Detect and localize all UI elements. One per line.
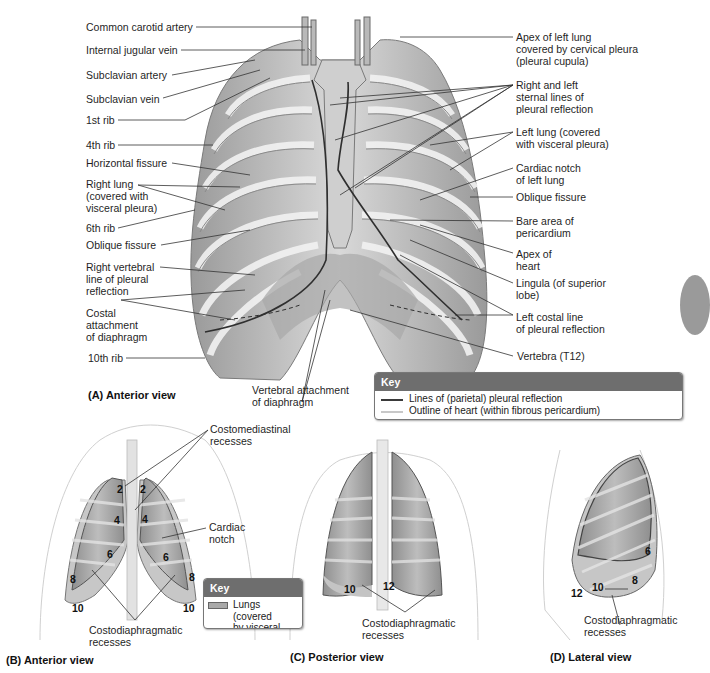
rib-number: 6 — [645, 545, 651, 557]
label-6th-rib: 6th rib — [86, 222, 115, 234]
lungs-posterior-figure — [290, 440, 478, 640]
rib-number: 10 — [344, 583, 356, 595]
label-subclavian-vein: Subclavian vein — [86, 93, 160, 105]
label-lingula: Lingula (of superior lobe) — [516, 277, 606, 301]
label-cardiac-notch: Cardiac notch — [209, 521, 245, 545]
label-left-lung: Left lung (covered with visceral pleura) — [516, 126, 609, 150]
panel-a-title: (A) Anterior view — [88, 389, 176, 401]
key-panel-b: Key Lungs (covered by visceral pleura) P… — [203, 578, 303, 629]
label-vertebral-attachment-diaphragm: Vertebral attachment of diaphragm — [252, 384, 349, 408]
label-costomediastinal-recesses: Costomediastinal recesses — [210, 423, 291, 447]
label-costal-attachment-diaphragm: Costal attachment of diaphragm — [86, 307, 147, 343]
panel-d-title: (D) Lateral view — [550, 651, 631, 663]
rib-number: 8 — [189, 571, 195, 583]
label-left-costal-line: Left costal line of pleural reflection — [516, 311, 605, 335]
rib-number: 2 — [140, 483, 146, 495]
key-a-item-label: Outline of heart (within fibrous pericar… — [409, 405, 600, 417]
label-costodiaphragmatic-recesses-d: Costodiaphragmatic recesses — [584, 614, 677, 638]
rib-number: 12 — [383, 580, 395, 592]
panel-b-title: (B) Anterior view — [6, 654, 94, 666]
label-subclavian-artery: Subclavian artery — [86, 69, 167, 81]
label-internal-jugular-vein: Internal jugular vein — [86, 44, 178, 56]
key-b-item-lungs: Lungs (covered by visceral pleura) — [204, 597, 302, 629]
label-apex-left-lung: Apex of left lung covered by cervical pl… — [516, 31, 638, 67]
rib-number: 10 — [183, 602, 195, 614]
key-panel-a: Key Lines of (parietal) pleural reflecti… — [374, 372, 683, 420]
label-4th-rib: 4th rib — [86, 139, 115, 151]
label-sternal-lines: Right and left sternal lines of pleural … — [516, 79, 593, 115]
label-right-lung: Right lung (covered with visceral pleura… — [86, 178, 157, 214]
panel-c-title: (C) Posterior view — [290, 651, 384, 663]
key-a-item-pleural-reflection: Lines of (parietal) pleural reflection — [375, 393, 682, 405]
rib-number: 4 — [142, 513, 148, 525]
label-oblique-fissure-right: Oblique fissure — [86, 239, 156, 251]
rib-number: 4 — [114, 514, 120, 526]
rib-number: 6 — [107, 548, 113, 560]
rib-number: 6 — [163, 551, 169, 563]
rib-number: 2 — [117, 483, 123, 495]
label-right-vertebral-line: Right vertebral line of pleural reflecti… — [86, 261, 154, 297]
rib-number: 10 — [72, 602, 84, 614]
label-oblique-fissure-left: Oblique fissure — [516, 191, 586, 203]
key-a-heading: Key — [375, 373, 682, 391]
rib-number: 8 — [70, 573, 76, 585]
key-a-item-heart-outline: Outline of heart (within fibrous pericar… — [375, 405, 682, 417]
key-b-item-label: Lungs (covered by visceral pleura) — [233, 599, 298, 629]
light-line-swatch-icon — [381, 411, 403, 413]
label-apex-of-heart: Apex of heart — [516, 248, 552, 272]
rib-number: 8 — [632, 574, 638, 586]
label-vertebra-t12: Vertebra (T12) — [517, 350, 585, 362]
label-1st-rib: 1st rib — [86, 114, 115, 126]
label-cardiac-notch-left-lung: Cardiac notch of left lung — [516, 162, 581, 186]
label-horizontal-fissure: Horizontal fissure — [86, 157, 167, 169]
dark-line-swatch-icon — [381, 399, 403, 401]
key-b-heading: Key — [204, 579, 302, 597]
label-10th-rib: 10th rib — [88, 352, 123, 364]
label-costodiaphragmatic-recesses-c: Costodiaphragmatic recesses — [362, 617, 455, 641]
rib-number: 10 — [592, 581, 604, 593]
cropped-edge-decoration — [680, 275, 710, 335]
rib-number: 12 — [571, 587, 583, 599]
lung-swatch-icon — [208, 602, 228, 609]
thorax-anterior-figure — [191, 17, 487, 380]
label-common-carotid-artery: Common carotid artery — [86, 21, 193, 33]
key-a-item-label: Lines of (parietal) pleural reflection — [409, 393, 562, 405]
label-costodiaphragmatic-recesses-b: Costodiaphragmatic recesses — [89, 624, 182, 648]
label-bare-area-pericardium: Bare area of pericardium — [516, 215, 574, 239]
